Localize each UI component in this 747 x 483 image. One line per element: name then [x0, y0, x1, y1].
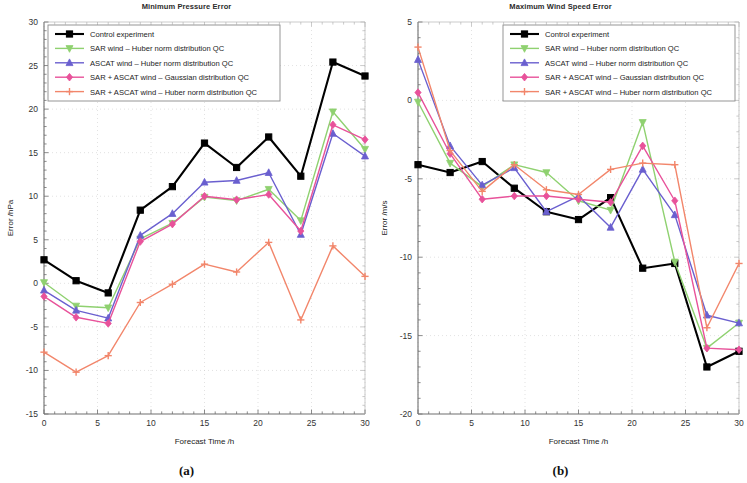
data-point-marker	[447, 160, 454, 167]
figure-container: Minimum Pressure Error 051015202530-15-1…	[0, 0, 747, 483]
y-tick-label: 20	[29, 104, 39, 114]
data-point-marker	[511, 192, 517, 200]
legend-label: SAR wind – Huber norm distribution QC	[90, 44, 225, 53]
y-tick-label: 10	[29, 191, 39, 201]
legend-label: SAR + ASCAT wind – Huber norm distributi…	[90, 88, 258, 97]
data-point-marker	[639, 120, 646, 127]
panel-b-svg: 051015202530-20-15-10-505Forecast Time /…	[374, 0, 747, 452]
x-tick-label: 20	[253, 418, 263, 428]
y-tick-label: 5	[407, 17, 412, 27]
data-point-marker	[105, 290, 111, 296]
y-tick-label: -10	[400, 252, 413, 262]
x-tick-label: 20	[627, 418, 637, 428]
y-axis-label: Error /m/s	[380, 200, 389, 235]
data-point-marker	[41, 257, 47, 263]
x-tick-label: 5	[469, 418, 474, 428]
data-point-marker	[234, 164, 240, 170]
data-point-marker	[73, 306, 80, 313]
data-point-marker	[298, 173, 304, 179]
data-point-marker	[575, 216, 581, 222]
data-point-marker	[137, 207, 143, 213]
legend-label: SAR + ASCAT wind – Gaussian distribution…	[90, 73, 250, 82]
legend-label: ASCAT wind – Huber norm distribution QC	[545, 59, 689, 68]
legend-label: Control experiment	[90, 30, 155, 39]
x-tick-label: 10	[520, 418, 530, 428]
panel-a-caption: (a)	[0, 463, 373, 479]
x-axis-label: Forecast Time /h	[549, 437, 609, 446]
data-point-marker	[73, 314, 79, 322]
data-point-marker	[447, 169, 453, 175]
series-sar_ascat_gauss	[41, 121, 368, 327]
data-point-marker	[511, 185, 517, 191]
x-tick-label: 25	[681, 418, 691, 428]
data-point-marker	[41, 293, 47, 301]
legend-label: SAR wind – Huber norm distribution QC	[545, 44, 680, 53]
panel-a: Minimum Pressure Error 051015202530-15-1…	[0, 0, 373, 483]
data-point-marker	[66, 31, 72, 37]
panel-b-caption: (b)	[374, 463, 747, 479]
panel-a-plot: 051015202530-15-10-5051015202530Forecast…	[0, 0, 373, 452]
x-tick-label: 30	[734, 418, 744, 428]
data-point-marker	[704, 364, 710, 370]
data-point-marker	[415, 162, 421, 168]
y-tick-label: 15	[29, 148, 39, 158]
legend-label: SAR + ASCAT wind – Huber norm distributi…	[545, 88, 713, 97]
y-tick-label: 30	[29, 17, 39, 27]
y-tick-label: 25	[29, 61, 39, 71]
data-point-marker	[73, 278, 79, 284]
y-tick-label: -15	[26, 409, 39, 419]
data-point-marker	[330, 59, 336, 65]
x-tick-label: 15	[200, 418, 210, 428]
y-axis-label: Error /hPa	[6, 199, 15, 236]
data-point-marker	[266, 134, 272, 140]
x-tick-label: 30	[360, 418, 370, 428]
y-tick-label: 5	[33, 235, 38, 245]
y-tick-label: -20	[400, 409, 413, 419]
legend-label: SAR + ASCAT wind – Gaussian distribution…	[545, 73, 705, 82]
y-tick-label: -5	[404, 174, 412, 184]
panel-b-plot: 051015202530-20-15-10-505Forecast Time /…	[374, 0, 747, 452]
x-axis-label: Forecast Time /h	[175, 437, 235, 446]
x-tick-label: 25	[307, 418, 317, 428]
data-point-marker	[640, 265, 646, 271]
data-point-marker	[521, 31, 527, 37]
data-point-marker	[543, 192, 549, 200]
y-tick-label: 0	[33, 278, 38, 288]
panel-b: Maximum Wind Speed Error 051015202530-20…	[374, 0, 747, 483]
data-point-marker	[415, 99, 422, 106]
x-tick-label: 15	[574, 418, 584, 428]
x-tick-label: 10	[146, 418, 156, 428]
x-tick-label: 0	[42, 418, 47, 428]
legend-label: Control experiment	[545, 30, 610, 39]
x-tick-label: 5	[95, 418, 100, 428]
data-point-marker	[479, 158, 485, 164]
data-point-marker	[169, 184, 175, 190]
y-tick-label: -5	[30, 322, 38, 332]
data-point-marker	[362, 73, 368, 79]
legend-label: ASCAT wind – Huber norm distribution QC	[90, 59, 234, 68]
data-point-marker	[234, 196, 240, 204]
y-tick-label: 0	[407, 95, 412, 105]
data-point-marker	[362, 152, 369, 159]
data-point-marker	[607, 207, 614, 214]
x-tick-label: 0	[416, 418, 421, 428]
panel-a-svg: 051015202530-15-10-5051015202530Forecast…	[0, 0, 373, 452]
data-point-marker	[362, 136, 368, 144]
y-tick-label: -15	[400, 331, 413, 341]
data-point-marker	[330, 121, 336, 129]
data-point-marker	[201, 140, 207, 146]
legend: Control experimentSAR wind – Huber norm …	[48, 25, 280, 101]
data-point-marker	[265, 169, 272, 176]
y-tick-label: -10	[26, 365, 39, 375]
legend: Control experimentSAR wind – Huber norm …	[503, 25, 735, 101]
